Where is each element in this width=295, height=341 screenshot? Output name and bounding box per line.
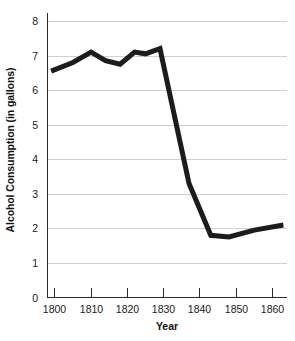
x-tick-label-1830: 1830 bbox=[152, 303, 176, 315]
series-line-0 bbox=[51, 49, 283, 237]
y-tick-label-7: 7 bbox=[32, 50, 38, 62]
data-series-group bbox=[51, 49, 283, 237]
x-tick-label-1840: 1840 bbox=[188, 303, 212, 315]
y-tick-label-8: 8 bbox=[32, 15, 38, 27]
y-tick-label-2: 2 bbox=[32, 222, 38, 234]
x-tick-label-1800: 1800 bbox=[43, 303, 67, 315]
y-tick-label-0: 0 bbox=[32, 292, 38, 304]
x-tick-label-1820: 1820 bbox=[116, 303, 140, 315]
y-tick-label-1: 1 bbox=[32, 257, 38, 269]
y-tick-label-3: 3 bbox=[32, 188, 38, 200]
x-tick-label-1860: 1860 bbox=[261, 303, 285, 315]
line-chart-plot: 012345678 1800181018201830184018501860 bbox=[0, 0, 295, 341]
x-tick-label-1810: 1810 bbox=[80, 303, 104, 315]
x-tick-labels-group: 1800181018201830184018501860 bbox=[43, 303, 285, 315]
y-tick-label-4: 4 bbox=[32, 153, 38, 165]
y-tick-labels-group: 012345678 bbox=[32, 15, 38, 304]
x-tick-label-1850: 1850 bbox=[225, 303, 249, 315]
y-tick-label-5: 5 bbox=[32, 119, 38, 131]
y-tick-label-6: 6 bbox=[32, 84, 38, 96]
chart-figure: Alcohol Consumption (in gallons) 0123456… bbox=[0, 0, 295, 341]
x-axis-title: Year bbox=[47, 320, 287, 332]
